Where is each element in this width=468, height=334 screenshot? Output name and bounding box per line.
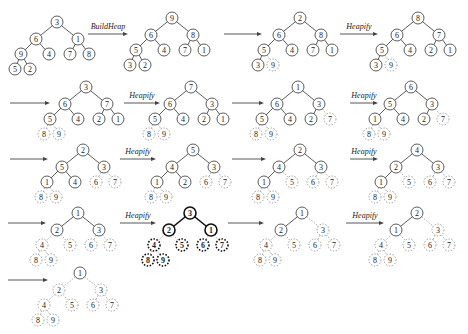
step-arrow: Heapify — [350, 91, 378, 105]
node-value: 3 — [55, 18, 59, 27]
heap-tree: 243156789 — [252, 144, 338, 203]
arrow-label: Heapify — [350, 147, 377, 156]
node-value: 1 — [209, 226, 213, 235]
heap-node: 1 — [151, 176, 163, 188]
heap-node: 5 — [187, 144, 199, 156]
node-value: 7 — [189, 83, 193, 92]
heap-node: 2 — [294, 144, 306, 156]
node-value: 9 — [161, 256, 165, 265]
sorted-node: 7 — [106, 299, 118, 311]
node-value: 6 — [204, 178, 208, 187]
arrow-label: Heapify — [124, 211, 151, 220]
node-value: 3 — [317, 100, 321, 109]
node-value: 6 — [277, 31, 281, 40]
node-value: 8 — [149, 193, 153, 202]
heap-node: 6 — [391, 29, 403, 41]
heap-node: 5 — [384, 98, 396, 110]
node-value: 2 — [183, 178, 187, 187]
node-value: 7 — [108, 241, 112, 250]
node-value: 1 — [300, 209, 304, 218]
node-value: 4 — [401, 115, 405, 124]
node-value: 3 — [319, 163, 323, 172]
arrowhead-icon — [151, 221, 156, 225]
sorted-node: 6 — [197, 239, 209, 251]
heap-tree: 123456789 — [30, 207, 116, 266]
arrowhead-icon — [151, 157, 156, 161]
node-value: 8 — [258, 256, 262, 265]
arrow-label: Heapify — [351, 211, 378, 220]
heap-node: 1 — [326, 44, 338, 56]
sorted-node: 3 — [95, 284, 107, 296]
heap-node: 4 — [158, 44, 170, 56]
heap-node: 3 — [98, 161, 110, 173]
node-value: 1 — [373, 115, 377, 124]
heap-node: 5 — [376, 44, 388, 56]
node-value: 3 — [436, 163, 440, 172]
node-value: 7 — [330, 178, 334, 187]
sorted-node: 9 — [160, 191, 172, 203]
node-value: 3 — [321, 226, 325, 235]
heap-node: 2 — [294, 12, 306, 24]
arrowhead-icon — [379, 221, 384, 225]
heap-node: 2 — [305, 113, 317, 125]
node-value: 1 — [78, 269, 82, 278]
node-value: 3 — [436, 226, 440, 235]
step-arrow: Heapify — [120, 211, 156, 225]
sorted-node: 2 — [53, 284, 65, 296]
heap-node: 6 — [59, 98, 71, 110]
sorted-node: 8 — [363, 128, 375, 140]
node-value: 9 — [271, 61, 275, 70]
node-value: 4 — [152, 241, 156, 250]
step-arrow — [224, 32, 262, 36]
sorted-node: 9 — [384, 254, 396, 266]
node-value: 4 — [76, 115, 80, 124]
node-value: 2 — [28, 65, 32, 74]
heap-node: 7 — [185, 81, 197, 93]
heap-node: 6 — [145, 29, 157, 41]
heap-node: 5 — [149, 113, 161, 125]
node-value: 5 — [292, 241, 296, 250]
heap-node: 3 — [51, 16, 63, 28]
node-value: 2 — [143, 61, 147, 70]
node-value: 1 — [45, 178, 49, 187]
arrowhead-icon — [43, 278, 48, 282]
sorted-node: 5 — [64, 239, 76, 251]
node-value: 5 — [48, 115, 52, 124]
arrowhead-icon — [123, 32, 128, 36]
sorted-node: 9 — [50, 191, 62, 203]
heap-tree: 543126789 — [145, 144, 231, 203]
node-value: 7 — [220, 241, 224, 250]
node-value: 7 — [441, 115, 445, 124]
heap-tree: 268547139 — [252, 12, 338, 71]
sorted-node: 8 — [369, 191, 381, 203]
node-value: 4 — [162, 46, 166, 55]
sorted-node: 6 — [424, 176, 436, 188]
sorted-node: 9 — [384, 191, 396, 203]
heap-tree: 361947852 — [9, 16, 95, 75]
arrowhead-icon — [155, 101, 160, 105]
heap-node: 2 — [411, 207, 423, 219]
sorted-node: 6 — [85, 239, 97, 251]
node-value: 7 — [183, 46, 187, 55]
node-value: 1 — [202, 46, 206, 55]
sorted-node: 7 — [324, 113, 336, 125]
sorted-node: 5 — [66, 299, 78, 311]
sorted-node: 9 — [158, 128, 170, 140]
node-value: 5 — [13, 65, 17, 74]
node-value: 3 — [102, 163, 106, 172]
step-arrow: BuildHeap — [88, 22, 128, 36]
heap-tree: 867542139 — [370, 12, 456, 71]
heap-tree: 123456789 — [32, 267, 118, 326]
node-value: 8 — [42, 130, 46, 139]
heap-node: 1 — [390, 224, 402, 236]
node-value: 6 — [63, 100, 67, 109]
heap-node: 2 — [418, 113, 430, 125]
step-arrow — [8, 221, 46, 225]
heap-node: 1 — [205, 224, 217, 236]
heap-node: 3 — [208, 161, 220, 173]
node-value: 7 — [447, 178, 451, 187]
heap-node: 4 — [166, 161, 178, 173]
arrowhead-icon — [261, 157, 266, 161]
node-value: 2 — [422, 115, 426, 124]
heap-tree: 163542789 — [250, 81, 336, 140]
